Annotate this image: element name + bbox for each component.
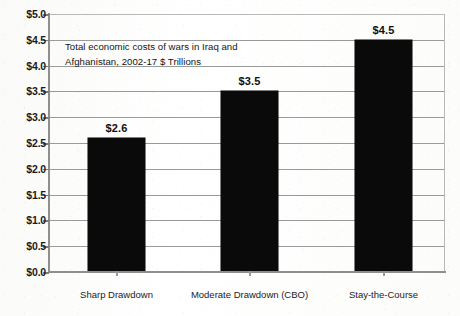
annotation-line-2: Afghanistan, 2002-17 $ Trillions <box>65 55 280 70</box>
x-axis <box>48 271 446 273</box>
y-axis-label: $0.5 <box>2 240 46 252</box>
y-axis-label: $3.5 <box>2 85 46 97</box>
y-axis-label: $2.5 <box>2 137 46 149</box>
y-axis-label: $2.0 <box>2 163 46 175</box>
bar-sharp-drawdown <box>88 138 145 272</box>
x-axis-category-label: Moderate Drawdown (CBO) <box>191 289 308 300</box>
y-axis-label: $3.0 <box>2 111 46 123</box>
bar-value-label: $4.5 <box>373 24 395 36</box>
annotation-line-1: Total economic costs of wars in Iraq and <box>65 40 280 55</box>
x-axis-category-label: Sharp Drawdown <box>80 289 153 300</box>
bar-stay-the-course <box>355 40 412 272</box>
y-axis-label: $4.0 <box>2 60 46 72</box>
bar-value-label: $2.6 <box>106 122 128 134</box>
y-axis-label: $1.0 <box>2 214 46 226</box>
chart-annotation: Total economic costs of wars in Iraq and… <box>65 40 280 69</box>
bar-value-label: $3.5 <box>239 75 261 87</box>
y-axis-label: $4.5 <box>2 34 46 46</box>
x-axis-tick <box>249 271 251 276</box>
y-axis-label: $0.0 <box>2 266 46 278</box>
bar-moderate-drawdown <box>221 91 278 272</box>
x-axis-category-label: Stay-the-Course <box>349 289 418 300</box>
y-axis-label: $1.5 <box>2 189 46 201</box>
chart-canvas: $2.6 $3.5 $4.5 $5.0 $4.5 $4.0 $3.5 $3.0 … <box>0 0 460 316</box>
x-axis-tick <box>116 271 118 276</box>
y-axis-label: $5.0 <box>2 8 46 20</box>
x-axis-tick <box>383 271 385 276</box>
